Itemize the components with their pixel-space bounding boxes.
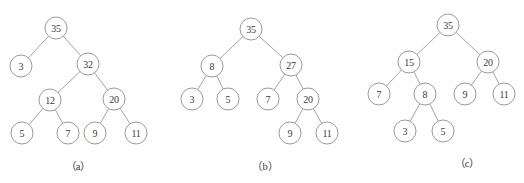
tree-node: 35	[240, 18, 262, 40]
binary-tree-figure: 3533212205791135827357209113515207891135…	[0, 0, 524, 183]
tree-edge	[417, 33, 440, 55]
tree-edge	[493, 72, 499, 84]
tree-node: 35	[437, 14, 459, 36]
tree-node: 11	[493, 83, 515, 105]
node-label: 35	[246, 24, 256, 35]
tree-edge	[296, 75, 303, 89]
tree-panel-c: 3515207891135	[368, 14, 515, 142]
tree-node: 5	[217, 88, 239, 110]
tree-panel-b: 3582735720911	[181, 18, 338, 144]
tree-node: 20	[297, 88, 319, 110]
node-label: 3	[190, 94, 195, 105]
tree-edge	[471, 71, 481, 85]
tree-edge	[313, 109, 321, 124]
tree-node: 20	[477, 51, 499, 73]
tree-edge	[198, 75, 207, 89]
tree-edges-a	[28, 36, 130, 125]
node-label: 20	[109, 94, 119, 105]
node-label: 11	[499, 89, 508, 100]
tree-node: 32	[77, 53, 99, 75]
node-label: 11	[322, 128, 331, 139]
tree-edge	[410, 104, 420, 122]
node-label: 7	[66, 128, 71, 139]
tree-edge	[274, 74, 285, 90]
tree-edge	[95, 73, 108, 90]
tree-node: 9	[84, 122, 106, 144]
node-label: 5	[441, 126, 446, 137]
node-label: 7	[377, 89, 382, 100]
tree-node: 11	[316, 122, 338, 144]
tree-edge	[28, 36, 48, 58]
node-label: 5	[226, 94, 231, 105]
node-label: 35	[443, 20, 453, 31]
node-label: 32	[83, 59, 93, 70]
tree-edge	[58, 72, 80, 93]
tree-edge	[100, 109, 108, 124]
tree-node: 11	[125, 122, 147, 144]
node-label: 15	[404, 57, 414, 68]
tree-node: 3	[394, 120, 416, 142]
node-label: 35	[51, 23, 61, 34]
node-label: 8	[423, 89, 428, 100]
node-label: 11	[131, 128, 140, 139]
tree-node: 7	[57, 122, 79, 144]
tree-node: 27	[280, 54, 302, 76]
panel-caption-a: （a）	[38, 158, 118, 173]
panel-caption-b: （b）	[225, 158, 305, 173]
tree-node: 20	[103, 88, 125, 110]
node-label: 20	[303, 94, 313, 105]
tree-edge	[55, 110, 62, 124]
tree-node: 3	[10, 55, 32, 77]
tree-node: 15	[398, 51, 420, 73]
tree-edges-c	[387, 32, 500, 121]
node-label: 9	[93, 128, 98, 139]
tree-edge	[120, 108, 130, 124]
tree-node: 8	[414, 83, 436, 105]
tree-edge	[220, 37, 243, 59]
tree-edge	[217, 76, 223, 89]
tree-node: 9	[454, 83, 476, 105]
tree-edge	[456, 32, 480, 54]
panel-caption-c: （c）	[427, 155, 507, 170]
tree-edge	[259, 36, 283, 57]
tree-node: 3	[181, 88, 203, 110]
tree-edges-b	[198, 36, 322, 123]
node-label: 12	[45, 95, 55, 106]
tree-node: 12	[39, 89, 61, 111]
node-label: 5	[20, 128, 25, 139]
tree-node: 9	[279, 122, 301, 144]
tree-edge	[414, 72, 420, 84]
tree-panel-a: 35332122057911	[10, 17, 147, 144]
tree-node: 7	[257, 88, 279, 110]
node-label: 7	[266, 94, 271, 105]
tree-edge	[29, 108, 43, 124]
tree-node: 7	[368, 83, 390, 105]
node-label: 3	[19, 61, 24, 72]
node-label: 27	[286, 60, 296, 71]
node-label: 8	[210, 61, 215, 72]
node-label: 3	[403, 126, 408, 137]
tree-node: 5	[432, 120, 454, 142]
node-label: 20	[483, 57, 493, 68]
tree-node: 5	[11, 122, 33, 144]
tree-edge	[295, 109, 303, 124]
tree-edge	[387, 70, 402, 86]
node-label: 9	[463, 89, 468, 100]
tree-node: 35	[45, 17, 67, 39]
node-label: 9	[288, 128, 293, 139]
tree-edge	[63, 36, 80, 56]
tree-edge	[430, 104, 438, 121]
tree-node: 8	[201, 55, 223, 77]
